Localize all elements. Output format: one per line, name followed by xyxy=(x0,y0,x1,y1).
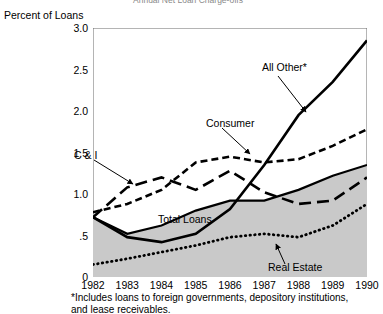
plot-svg xyxy=(93,28,367,277)
chart-footnote: *Includes loans to foreign governments, … xyxy=(71,292,371,314)
annotation-all-other: All Other* xyxy=(262,62,307,73)
x-tick-label: 1990 xyxy=(347,280,383,291)
annotation-c-and-i: C & I xyxy=(74,150,97,161)
y-tick-label: .5 xyxy=(54,231,88,241)
annotation-real-estate: Real Estate xyxy=(268,262,322,273)
footnote-line-2: and lease receivables. xyxy=(71,304,371,314)
plot-area xyxy=(93,28,367,277)
y-tick-label: 1.0 xyxy=(54,189,88,199)
y-tick-label: 2.5 xyxy=(54,65,88,75)
footnote-line-1: *Includes loans to foreign governments, … xyxy=(71,292,371,304)
y-tick-label: 3.0 xyxy=(54,23,88,33)
y-tick-label: 2.0 xyxy=(54,106,88,116)
annotation-total-loans: Total Loans xyxy=(158,214,212,225)
annotation-consumer: Consumer xyxy=(206,118,254,129)
